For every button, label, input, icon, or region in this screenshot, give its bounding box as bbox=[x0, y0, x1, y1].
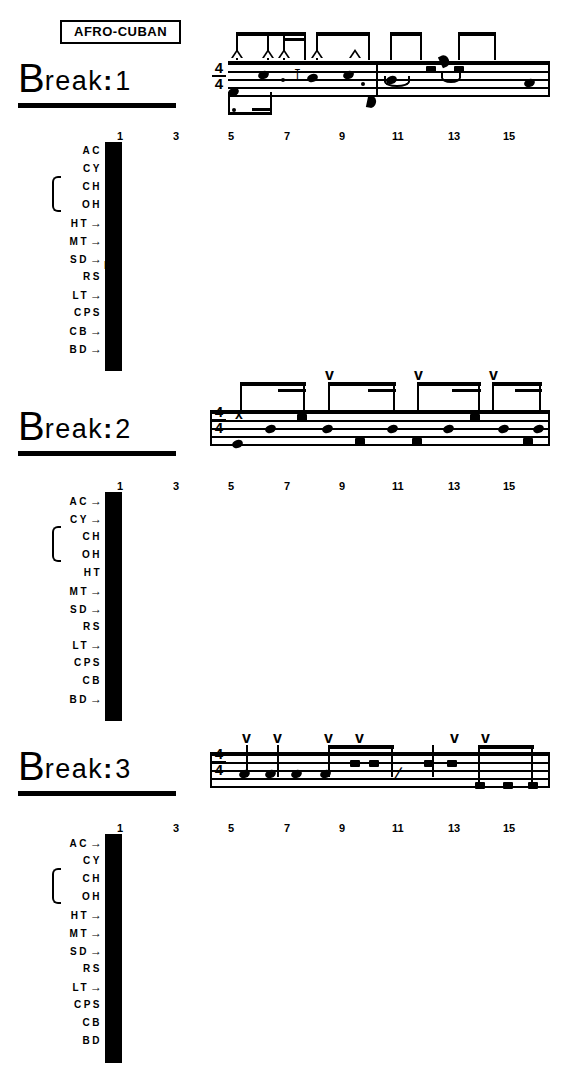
grid-cell[interactable] bbox=[121, 219, 122, 238]
row-label-text: CPS bbox=[74, 657, 102, 668]
grid-cell[interactable] bbox=[121, 702, 122, 721]
grid-cell[interactable] bbox=[121, 257, 122, 276]
grid-cell-filled[interactable] bbox=[121, 987, 122, 1006]
break-2-column-numbers: 1 3 5 7 9 11 13 15 bbox=[105, 478, 550, 492]
grid-row-ac bbox=[106, 143, 122, 162]
break-3-row-labels: AC→CYCHOHHT→MT→SD→RSLT→CPSCBBD bbox=[22, 834, 104, 1050]
hihat-brace bbox=[52, 176, 61, 212]
row-label-text: AC bbox=[70, 496, 89, 507]
row-label-oh: OH bbox=[22, 196, 104, 214]
grid-row-cy bbox=[106, 162, 122, 181]
grid-cell[interactable] bbox=[121, 664, 122, 683]
break-1-grid[interactable]: FF bbox=[105, 142, 122, 371]
grid-cell[interactable] bbox=[121, 162, 122, 181]
grid-cell[interactable] bbox=[121, 314, 122, 333]
row-label-lt: LT→ bbox=[22, 978, 104, 996]
grid-cell[interactable] bbox=[121, 550, 122, 569]
row-label-text: AC bbox=[83, 145, 102, 156]
grid-cell[interactable] bbox=[121, 1025, 122, 1044]
grid-cell[interactable] bbox=[121, 295, 122, 314]
grid-row-lt bbox=[106, 295, 122, 314]
grid-cell[interactable] bbox=[121, 1044, 122, 1063]
row-label-text: CH bbox=[83, 531, 102, 542]
grid-cell[interactable] bbox=[121, 238, 122, 257]
grid-cell[interactable] bbox=[121, 683, 122, 702]
grid-cell[interactable] bbox=[121, 512, 122, 531]
column-number: 5 bbox=[228, 822, 234, 834]
row-label-lt: LT→ bbox=[22, 286, 104, 304]
note-head bbox=[523, 438, 533, 445]
grid-cell[interactable] bbox=[121, 930, 122, 949]
row-label-text: CPS bbox=[74, 999, 102, 1010]
column-number: 1 bbox=[117, 130, 123, 142]
row-label-text: CH bbox=[83, 181, 102, 192]
grid-cell-filled[interactable] bbox=[121, 607, 122, 626]
arrow-right-icon: → bbox=[90, 512, 102, 526]
row-label-text: CY bbox=[70, 514, 89, 525]
break-2-grid[interactable] bbox=[105, 492, 122, 721]
grid-cell[interactable] bbox=[121, 493, 122, 512]
grid-row-cb bbox=[106, 1025, 122, 1044]
row-label-cb: CB bbox=[22, 1014, 104, 1032]
break-1-title: Break:1 bbox=[18, 60, 130, 97]
break-1-timesig-bottom: 4 bbox=[215, 75, 223, 92]
grid-row-lt bbox=[106, 987, 122, 1006]
column-number: 15 bbox=[503, 480, 515, 492]
grid-cell[interactable] bbox=[121, 1006, 122, 1025]
grid-cell[interactable] bbox=[121, 200, 122, 219]
grid-cell[interactable] bbox=[121, 873, 122, 892]
grid-cell[interactable] bbox=[121, 835, 122, 854]
grid-cell[interactable] bbox=[121, 531, 122, 550]
flam-marker: F bbox=[104, 259, 111, 271]
note-head bbox=[297, 414, 307, 421]
row-label-text: MT bbox=[70, 586, 89, 597]
grid-cell[interactable] bbox=[121, 352, 122, 371]
grid-row-ht bbox=[106, 569, 122, 588]
break-2-title: Break:2 bbox=[18, 408, 130, 445]
accent-icon bbox=[349, 49, 361, 58]
grid-cell[interactable] bbox=[121, 588, 122, 607]
row-label-rs: RS bbox=[22, 618, 104, 636]
hihat-brace bbox=[52, 526, 61, 562]
grid-cell[interactable] bbox=[121, 968, 122, 987]
grid-cell[interactable] bbox=[121, 276, 122, 295]
grid-cell[interactable] bbox=[121, 181, 122, 200]
break-1-title-colon: : bbox=[103, 66, 112, 96]
arrow-right-icon: → bbox=[90, 494, 102, 508]
row-label-ac: AC→ bbox=[22, 834, 104, 852]
grid-cell[interactable] bbox=[121, 949, 122, 968]
grid-cell[interactable] bbox=[121, 569, 122, 588]
grid-cell[interactable] bbox=[121, 333, 122, 352]
grid-cell[interactable] bbox=[121, 626, 122, 645]
row-label-text: AC bbox=[70, 838, 89, 849]
grid-row-lt bbox=[106, 645, 122, 664]
grid-row-cb bbox=[106, 333, 122, 352]
column-number: 1 bbox=[117, 822, 123, 834]
x-note-head-icon: x bbox=[235, 408, 243, 420]
arrow-right-icon: → bbox=[90, 342, 102, 356]
accent-v-icon: v bbox=[414, 368, 423, 382]
note-head bbox=[355, 438, 365, 445]
break-1-title-number: 1 bbox=[115, 66, 130, 96]
arrow-right-icon: → bbox=[90, 980, 102, 994]
note-head bbox=[475, 782, 485, 789]
grid-row-sd bbox=[106, 949, 122, 968]
row-label-text: LT bbox=[73, 982, 89, 993]
row-label-text: OH bbox=[82, 549, 102, 560]
row-label-oh: OH bbox=[22, 888, 104, 906]
accent-icon bbox=[278, 49, 290, 58]
row-label-sd: SD→ bbox=[22, 942, 104, 960]
grid-row-ht bbox=[106, 911, 122, 930]
row-label-text: SD bbox=[70, 604, 89, 615]
note-head bbox=[447, 760, 457, 767]
row-label-cps: CPS bbox=[22, 996, 104, 1014]
row-label-text: LT bbox=[73, 640, 89, 651]
note-head bbox=[470, 414, 480, 421]
grid-cell[interactable] bbox=[121, 911, 122, 930]
grid-cell[interactable] bbox=[121, 854, 122, 873]
grid-cell[interactable] bbox=[121, 892, 122, 911]
grid-cell[interactable] bbox=[121, 645, 122, 664]
grid-cell[interactable] bbox=[121, 143, 122, 162]
break-3-grid[interactable] bbox=[105, 834, 122, 1063]
accent-v-icon: v bbox=[489, 368, 498, 382]
